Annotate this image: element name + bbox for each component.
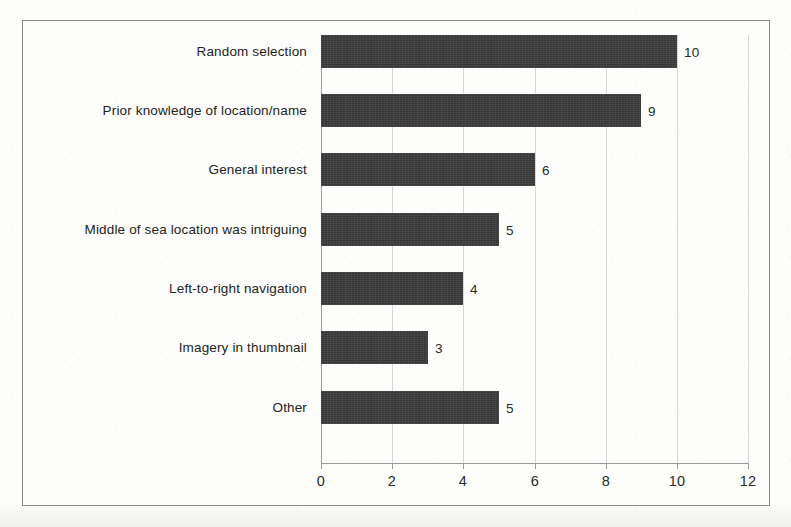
x-axis-tick bbox=[321, 463, 322, 469]
bar-value-label: 3 bbox=[435, 340, 443, 355]
category-label: Middle of sea location was intriguing bbox=[85, 213, 307, 246]
category-label: Random selection bbox=[197, 35, 307, 68]
bar-general-interest bbox=[321, 153, 535, 186]
category-label: Other bbox=[272, 391, 307, 424]
category-label: Prior knowledge of location/name bbox=[103, 94, 307, 127]
x-axis-tick bbox=[392, 463, 393, 469]
x-axis-tick-label: 12 bbox=[740, 473, 757, 489]
x-axis-tick-label: 10 bbox=[669, 473, 686, 489]
category-label: Imagery in thumbnail bbox=[179, 331, 307, 364]
bar-value-label: 5 bbox=[506, 222, 514, 237]
bar-value-label: 4 bbox=[470, 281, 478, 296]
bar-left-to-right-navigation bbox=[321, 272, 463, 305]
x-axis-tick bbox=[606, 463, 607, 469]
bar-prior-knowledge bbox=[321, 94, 641, 127]
x-axis-tick-label: 6 bbox=[531, 473, 539, 489]
x-axis-tick-label: 4 bbox=[459, 473, 467, 489]
bar-middle-of-sea-location bbox=[321, 213, 499, 246]
bar-value-label: 5 bbox=[506, 400, 514, 415]
x-axis-tick bbox=[535, 463, 536, 469]
x-axis-tick-label: 8 bbox=[602, 473, 610, 489]
gridline-12 bbox=[748, 35, 749, 463]
plot-area: 10 9 6 5 4 3 bbox=[321, 35, 748, 463]
x-axis-tick-label: 2 bbox=[388, 473, 396, 489]
x-axis-tick-label: 0 bbox=[317, 473, 325, 489]
scanned-page-surface: Random selection Prior knowledge of loca… bbox=[0, 0, 791, 527]
gridline-10 bbox=[677, 35, 678, 463]
bar-value-label: 6 bbox=[542, 162, 550, 177]
category-label: General interest bbox=[209, 153, 307, 186]
category-label: Left-to-right navigation bbox=[169, 272, 307, 305]
bar-value-label: 10 bbox=[684, 44, 699, 59]
bar-value-label: 9 bbox=[648, 103, 656, 118]
bar-imagery-in-thumbnail bbox=[321, 331, 428, 364]
bar-other bbox=[321, 391, 499, 424]
x-axis-tick bbox=[748, 463, 749, 469]
x-axis-tick bbox=[677, 463, 678, 469]
x-axis-tick bbox=[463, 463, 464, 469]
scan-bottom-smudge bbox=[0, 505, 791, 527]
chart-frame-border: Random selection Prior knowledge of loca… bbox=[22, 20, 770, 506]
bar-random-selection bbox=[321, 35, 677, 68]
